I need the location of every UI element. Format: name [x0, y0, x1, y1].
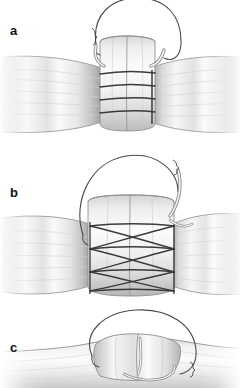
tendon-right-stump — [153, 50, 241, 140]
panel-c: c — [0, 308, 241, 388]
tendon-left-stump-b — [0, 210, 90, 302]
panel-b-label: b — [10, 186, 18, 199]
panel-c-illustration — [0, 308, 241, 388]
panel-b: b — [0, 140, 241, 308]
panel-c-label: c — [10, 341, 17, 354]
tendon-left-stump — [0, 50, 102, 140]
figure-container: a — [0, 0, 241, 388]
tendon-right-stump-b — [172, 206, 241, 302]
tendon-repair-barrel — [100, 36, 155, 131]
panel-a-label: a — [10, 24, 17, 37]
panel-a-illustration — [0, 0, 241, 140]
panel-a: a — [0, 0, 241, 140]
panel-b-illustration — [0, 140, 241, 308]
